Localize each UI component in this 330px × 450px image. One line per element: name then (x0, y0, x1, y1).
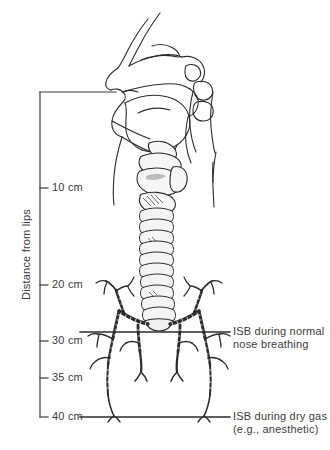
tongue-surface-detail (138, 108, 170, 113)
callout-isb-normal-nose-breathing: ISB during normal nose breathing (233, 325, 324, 351)
trachea (140, 208, 176, 323)
neck-anterior-contour (113, 137, 122, 205)
right-main-bronchus (170, 277, 230, 422)
lower-lip-chin-outline (112, 102, 123, 137)
callout-isb-drygas-line-2: (e.g., anesthetic) (233, 423, 327, 436)
callout-isb-normal-line-2: nose breathing (233, 338, 324, 351)
arytenoid-cartilage-outline (170, 166, 187, 192)
mandible-outline (112, 121, 150, 139)
left-main-bronchus (88, 277, 148, 422)
nasal-septum-line (141, 56, 178, 60)
callout-isb-dry-gas: ISB during dry gas (e.g., anesthetic) (233, 410, 327, 436)
nose-tip-outline (106, 68, 118, 90)
sphenoid-sinus-outline (185, 65, 201, 82)
axis-tick-label-35cm: 35 cm (52, 371, 83, 383)
cervical-vertebra-c1 (194, 81, 213, 100)
axis-tick-label-30cm: 30 cm (52, 334, 83, 346)
callout-isb-drygas-line-1: ISB during dry gas (233, 410, 327, 423)
distance-axis (40, 92, 116, 417)
tongue-base-outline (125, 103, 142, 150)
cervical-spine-posterior-line (211, 92, 215, 153)
larynx (137, 141, 187, 213)
neck-posterior-contour (213, 152, 216, 182)
upper-lip-outline (111, 89, 125, 102)
axis-tick-label-40cm: 40 cm (52, 410, 83, 422)
axis-tick-label-20cm: 20 cm (52, 278, 83, 290)
callout-isb-normal-line-1: ISB during normal (233, 325, 324, 338)
anatomy-illustration (0, 0, 330, 450)
axis-tick-label-10cm: 10 cm (52, 181, 83, 193)
cervical-spine-anterior-line (190, 92, 196, 152)
axis-title-distance-from-lips: Distance from lips (20, 209, 32, 300)
airway-isb-figure: 10 cm 20 cm 30 cm 35 cm 40 cm Distance f… (0, 0, 330, 450)
nasal-bridge-outline (118, 19, 148, 68)
